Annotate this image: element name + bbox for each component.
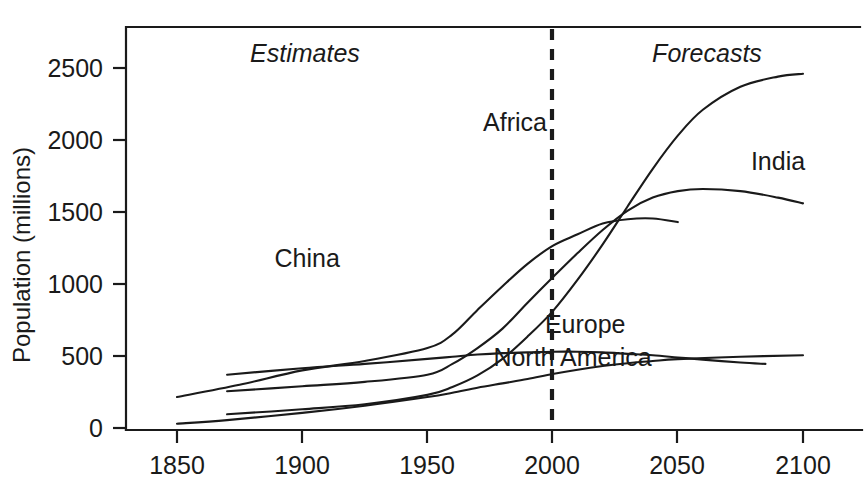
annotation-estimates: Estimates [250, 39, 360, 67]
x-tick-label-1950: 1950 [399, 451, 455, 479]
series-curve-north-america[interactable] [177, 355, 803, 423]
series-label-north-america: North America [493, 343, 651, 371]
y-tick-label-1000: 1000 [47, 270, 103, 298]
y-tick-label-0: 0 [89, 414, 103, 442]
x-tick-label-2050: 2050 [649, 451, 705, 479]
series-label-china: China [275, 244, 340, 272]
population-projection-chart: 0 500 1000 1500 2000 2500 Population (mi… [0, 0, 867, 494]
y-tick-label-2000: 2000 [47, 126, 103, 154]
x-tick-label-2000: 2000 [524, 451, 580, 479]
x-axis-ticks [177, 430, 803, 443]
y-tick-label-500: 500 [61, 342, 103, 370]
chart-svg: 0 500 1000 1500 2000 2500 Population (mi… [0, 0, 867, 494]
series-labels-group: China India Africa Europe North America [275, 108, 806, 371]
y-axis-title: Population (millions) [8, 147, 35, 363]
x-tick-label-1850: 1850 [149, 451, 205, 479]
y-tick-label-1500: 1500 [47, 198, 103, 226]
x-tick-label-1900: 1900 [274, 451, 330, 479]
series-label-india: India [751, 147, 805, 175]
y-axis-ticks [113, 68, 126, 428]
x-tick-label-2100: 2100 [775, 451, 831, 479]
series-label-europe: Europe [545, 310, 626, 338]
y-tick-label-2500: 2500 [47, 54, 103, 82]
series-label-africa: Africa [483, 108, 547, 136]
annotation-forecasts: Forecasts [652, 39, 762, 67]
